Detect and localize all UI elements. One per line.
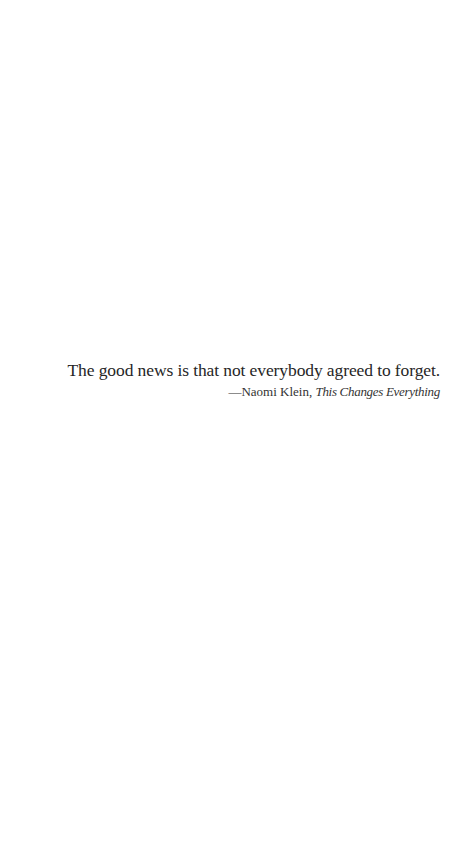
attribution-dash: — — [228, 384, 241, 399]
epigraph-quote: The good news is that not everybody agre… — [68, 358, 440, 382]
epigraph: The good news is that not everybody agre… — [68, 358, 440, 401]
attribution-book-title: This Changes Everything — [315, 384, 440, 399]
attribution-author: Naomi Klein — [241, 384, 309, 399]
epigraph-attribution: —Naomi Klein, This Changes Everything — [68, 383, 440, 401]
